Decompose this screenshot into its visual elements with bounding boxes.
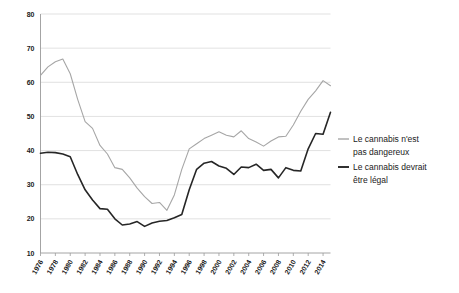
legend-label-2-line2: être légal	[353, 175, 388, 185]
x-tick-label: 2012	[298, 258, 312, 275]
x-tick-label: 1994	[164, 258, 178, 275]
chart-legend: Le cannabis n'estpas dangereuxLe cannabi…	[338, 134, 427, 185]
y-tick-label: 80	[27, 11, 35, 18]
x-tick-label: 2000	[209, 258, 223, 275]
x-tick-label: 2010	[283, 258, 297, 275]
x-tick-label: 1992	[149, 258, 163, 275]
x-tick-label: 1978	[45, 258, 59, 275]
y-tick-label: 20	[27, 215, 35, 222]
series-line-2	[41, 112, 331, 226]
x-tick-label: 2008	[268, 258, 282, 275]
y-tick-label: 60	[27, 79, 35, 86]
x-tick-label: 1998	[194, 258, 208, 275]
legend-label-2-line1: Le cannabis devrait	[353, 162, 427, 172]
x-tick-label: 1982	[75, 258, 89, 275]
x-tick-label: 1976	[31, 258, 45, 275]
legend-label-1-line2: pas dangereux	[353, 147, 410, 157]
data-series-group	[41, 59, 331, 226]
y-axis-tick-labels: 8070605040302010	[27, 11, 35, 257]
x-axis-tick-labels: 1976197819801982198419861988199019921994…	[31, 258, 327, 275]
x-tick-label: 1984	[90, 258, 104, 275]
x-tick-label: 2004	[239, 258, 253, 275]
y-tick-label: 50	[27, 113, 35, 120]
x-tick-label: 2014	[313, 258, 327, 275]
y-tick-label: 30	[27, 181, 35, 188]
legend-label-1-line1: Le cannabis n'est	[353, 134, 420, 144]
grid-lines	[41, 14, 331, 253]
chart-container: 8070605040302010 19761978198019821984198…	[0, 0, 459, 293]
y-tick-label: 10	[27, 250, 35, 257]
y-tick-label: 70	[27, 45, 35, 52]
x-tick-label: 2002	[224, 258, 238, 275]
x-tick-label: 1986	[105, 258, 119, 275]
x-tick-label: 1988	[120, 258, 134, 275]
x-tick-label: 1980	[60, 258, 74, 275]
x-tick-label: 1990	[135, 258, 149, 275]
line-chart: 8070605040302010 19761978198019821984198…	[0, 0, 459, 293]
y-tick-label: 40	[27, 147, 35, 154]
x-tick-label: 1996	[179, 258, 193, 275]
x-tick-label: 2006	[254, 258, 268, 275]
